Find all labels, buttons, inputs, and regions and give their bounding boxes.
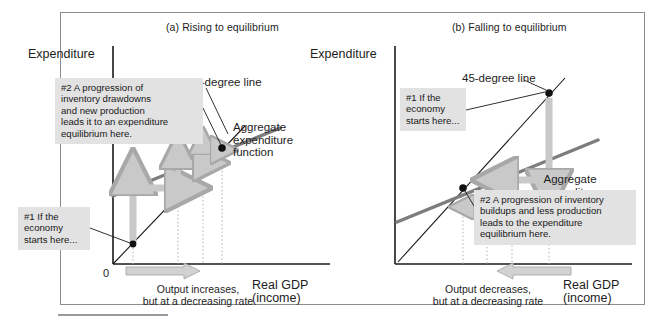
- panel-a-leader-step1: [90, 228, 130, 243]
- panel-a-direction-note: Output increases, but at a decreasing ra…: [118, 283, 278, 308]
- panel-a-callout-step-1: #1 If the economy starts here...: [18, 207, 90, 250]
- panel-a-callout-step-2: #2 A progression of inventory drawdowns …: [55, 78, 203, 144]
- panel-a-leader-45: [206, 88, 228, 134]
- panel-b-callout-step-1: #1 If the economy starts here...: [400, 88, 466, 131]
- panel-b-45-degree-label: 45-degree line: [462, 72, 536, 85]
- panel-b-direction-note: Output decreases, but at a decreasing ra…: [408, 283, 568, 308]
- panel-b-start-point: [545, 89, 553, 97]
- panel-a-y-axis-label: Expenditure: [28, 48, 95, 61]
- panel-b-y-axis-label: Expenditure: [310, 48, 377, 61]
- panel-a-equilibrium-point: [218, 144, 226, 152]
- panel-b-callout-step-2: #2 A progression of inventory buildups a…: [474, 190, 636, 245]
- panel-b-equilibrium-point: [459, 184, 467, 192]
- panel-a-origin-label: 0: [103, 267, 109, 280]
- panel-b-x-axis-label: Real GDP (income): [563, 279, 619, 305]
- panel-a-start-point: [130, 241, 137, 248]
- panel-b-direction-arrow: [497, 263, 571, 279]
- panel-b-title: (b) Falling to equilibrium: [452, 21, 567, 33]
- panel-a-title: (a) Rising to equilibrium: [166, 21, 279, 33]
- figure-root: (a) Rising to equilibrium (b) Falling to…: [0, 0, 663, 330]
- panel-b-leader-step1: [466, 92, 545, 110]
- panel-a-direction-arrow: [126, 263, 200, 279]
- panel-a-ae-label: Aggregate expenditure function: [233, 121, 293, 159]
